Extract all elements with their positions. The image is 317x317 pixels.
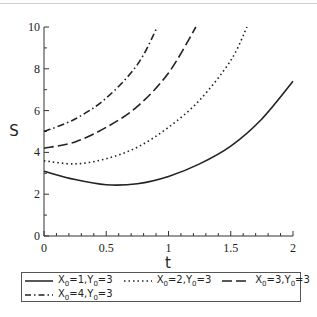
legend-row-1: X0=1,Y0=3 X0=2,Y0=3 X0=3,Y0=3 [22, 274, 317, 288]
axes: 00.511.520246810 [28, 20, 296, 255]
series-line-3 [44, 27, 196, 148]
legend-label: X0=3,Y0=3 [255, 274, 310, 288]
y-tick-label: 2 [34, 187, 40, 201]
y-tick-label: 8 [34, 62, 40, 76]
legend-item-x0-1: X0=1,Y0=3 [22, 274, 113, 288]
x-tick-label: 0.5 [99, 241, 114, 255]
legend-item-x0-2: X0=2,Y0=3 [121, 274, 212, 288]
y-tick-label: 6 [34, 104, 40, 118]
line-chart: 00.511.520246810 t S [0, 0, 317, 270]
x-tick-label: 1 [166, 241, 172, 255]
series-line-4 [44, 27, 157, 132]
y-tick-label: 10 [28, 20, 40, 34]
legend-row-2: X0=4,Y0=3 [22, 288, 121, 302]
x-tick-label: 2 [290, 241, 296, 255]
legend-label: X0=4,Y0=3 [58, 288, 113, 302]
series-line-2 [44, 27, 247, 164]
dashdot-line-swatch-icon [25, 291, 53, 299]
legend-item-x0-4: X0=4,Y0=3 [22, 288, 113, 302]
legend-label: X0=1,Y0=3 [58, 274, 113, 288]
y-axis-label: S [9, 122, 19, 140]
x-axis-label: t [165, 254, 171, 270]
x-tick-label: 1.5 [223, 241, 238, 255]
solid-line-swatch-icon [25, 277, 53, 285]
y-tick-label: 0 [34, 229, 40, 243]
series-line-1 [44, 81, 293, 185]
curves [44, 27, 293, 185]
legend-item-x0-3: X0=3,Y0=3 [219, 274, 310, 288]
y-tick-label: 4 [34, 145, 40, 159]
dashed-line-swatch-icon [222, 277, 250, 285]
x-tick-label: 0 [41, 241, 47, 255]
dotted-line-swatch-icon [124, 277, 152, 285]
legend: X0=1,Y0=3 X0=2,Y0=3 X0=3,Y0=3 X0=4,Y0=3 [21, 272, 301, 302]
legend-label: X0=2,Y0=3 [157, 274, 212, 288]
